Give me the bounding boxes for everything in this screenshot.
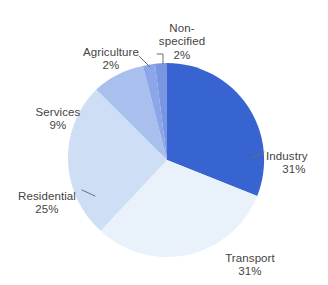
pie-label-transport-pct: 31% — [212, 265, 288, 279]
pie-label-industry-pct: 31% — [266, 163, 328, 177]
pie-label-residential: Residential 25% — [4, 176, 90, 230]
pie-label-industry: Industry 31% — [266, 136, 328, 190]
pie-label-services-name: Services — [36, 106, 81, 118]
pie-label-nonspecified: Non- specified 2% — [152, 8, 212, 76]
pie-label-residential-name: Residential — [18, 190, 76, 202]
pie-label-services-pct: 9% — [20, 119, 96, 133]
pie-label-transport-name: Transport — [225, 252, 275, 264]
pie-label-agriculture-name: Agriculture — [83, 46, 139, 58]
pie-slices — [68, 63, 264, 257]
pie-label-transport: Transport 31% — [212, 238, 288, 285]
pie-label-industry-name: Industry — [266, 150, 308, 162]
pie-label-services: Services 9% — [20, 92, 96, 146]
pie-label-residential-pct: 25% — [4, 203, 90, 217]
pie-label-agriculture-pct: 2% — [70, 59, 152, 73]
pie-label-nonspecified-name: Non- specified — [159, 22, 205, 48]
pie-label-agriculture: Agriculture 2% — [70, 32, 152, 86]
pie-label-nonspecified-pct: 2% — [152, 49, 212, 63]
pie-chart-figure: Non- specified 2% Agriculture 2% Service… — [0, 0, 328, 285]
